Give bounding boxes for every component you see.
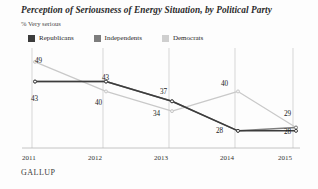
data-point-republicans-2014 — [237, 129, 240, 132]
plot-svg — [0, 48, 318, 152]
value-label-28-9: 28 — [284, 128, 291, 136]
value-label-37-4: 37 — [160, 88, 167, 96]
data-point-democrats-2013 — [171, 110, 174, 113]
value-label-40-6: 40 — [221, 80, 228, 88]
legend-label-republicans: Republicans — [39, 34, 74, 42]
legend-swatch-icon-democrats — [162, 35, 169, 42]
legend-label-independents: Independents — [105, 34, 142, 42]
value-label-49-0: 49 — [35, 57, 42, 65]
plot-area — [0, 48, 318, 152]
value-label-28-7: 28 — [216, 127, 223, 135]
value-label-40-3: 40 — [95, 99, 102, 107]
x-axis-tick-2015: 2015 — [278, 154, 292, 162]
chart-subtitle: % Very serious — [21, 20, 61, 27]
value-label-43-2: 43 — [102, 74, 109, 82]
x-axis-tick-2011: 2011 — [22, 154, 36, 162]
value-label-43-1: 43 — [31, 95, 38, 103]
value-label-34-5: 34 — [153, 110, 160, 118]
legend-item-independents[interactable]: Independents — [94, 34, 142, 42]
data-point-democrats-2014 — [237, 90, 240, 93]
legend-item-democrats[interactable]: Democrats — [162, 34, 203, 42]
data-point-republicans-2015 — [295, 129, 298, 132]
value-label-29-8: 29 — [284, 110, 291, 118]
x-axis-tick-2014: 2014 — [220, 154, 234, 162]
legend-label-democrats: Democrats — [173, 34, 203, 42]
page-title: Perception of Seriousness of Energy Situ… — [21, 5, 272, 15]
legend-item-republicans[interactable]: Republicans — [28, 34, 74, 42]
legend-swatch-icon-republicans — [28, 35, 35, 42]
x-axis-tick-2012: 2012 — [88, 154, 102, 162]
data-point-republicans-2011 — [34, 80, 37, 83]
data-point-independents-2015 — [295, 126, 298, 129]
chart-legend: Republicans Independents Democrats — [28, 34, 223, 42]
data-point-republicans-2013 — [171, 100, 174, 103]
gallup-line-chart: Perception of Seriousness of Energy Situ… — [0, 0, 318, 189]
legend-swatch-icon-independents — [94, 35, 101, 42]
x-axis-tick-2013: 2013 — [154, 154, 168, 162]
data-point-democrats-2012 — [105, 90, 108, 93]
brand-footer: GALLUP — [21, 168, 56, 177]
